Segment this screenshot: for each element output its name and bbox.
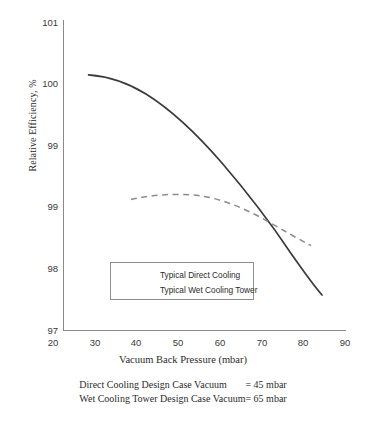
legend: Typical Direct Cooling Typical Wet Cooli… xyxy=(110,262,254,300)
y-tick-label: 98 xyxy=(24,263,58,274)
legend-item-wet-cooling-tower: Typical Wet Cooling Tower xyxy=(117,283,257,297)
annotation-label: Direct Cooling Design Case Vacuum xyxy=(79,378,245,392)
x-tick-label: 60 xyxy=(205,337,235,348)
legend-label: Typical Direct Cooling xyxy=(160,270,240,280)
x-axis-line xyxy=(63,330,346,331)
annotation-value: = 65 mbar xyxy=(245,392,286,406)
design-case-table: Direct Cooling Design Case Vacuum = 45 m… xyxy=(79,378,286,406)
y-tick-label: 97 xyxy=(24,325,58,336)
table-row: Direct Cooling Design Case Vacuum = 45 m… xyxy=(79,378,286,392)
legend-item-direct-cooling: Typical Direct Cooling xyxy=(117,268,240,282)
x-tick-label: 30 xyxy=(80,337,110,348)
annotation-label: Wet Cooling Tower Design Case Vacuum xyxy=(79,392,245,406)
y-tick-label: 99 xyxy=(24,140,58,151)
x-tick-label: 20 xyxy=(38,337,68,348)
annotation-value: = 45 mbar xyxy=(245,378,286,392)
y-axis-line xyxy=(63,20,64,331)
x-tick-label: 50 xyxy=(163,337,193,348)
x-axis-title: Vacuum Back Pressure (mbar) xyxy=(0,354,366,365)
y-tick-label: 101 xyxy=(24,17,58,28)
legend-label: Typical Wet Cooling Tower xyxy=(160,285,257,295)
x-tick-label: 80 xyxy=(288,337,318,348)
series-line-typical-wet-cooling-tower xyxy=(131,194,311,245)
chart-page: Relative Efficiency, % 101 100 99 99 98 … xyxy=(0,0,366,425)
x-tick-label: 40 xyxy=(121,337,151,348)
legend-swatch-solid-icon xyxy=(117,270,155,280)
x-tick-label: 90 xyxy=(330,337,360,348)
legend-swatch-dashed-icon xyxy=(117,285,155,295)
y-tick-label: 99 xyxy=(24,201,58,212)
table-row: Wet Cooling Tower Design Case Vacuum = 6… xyxy=(79,392,286,406)
y-tick-label: 100 xyxy=(24,78,58,89)
footer-notes: Direct Cooling Design Case Vacuum = 45 m… xyxy=(0,378,366,406)
x-tick-label: 70 xyxy=(247,337,277,348)
